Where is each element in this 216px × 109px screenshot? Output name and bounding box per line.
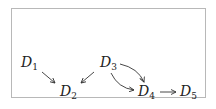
node-d5: D5: [180, 84, 197, 101]
edge-d1-d2: [42, 72, 55, 83]
edge-d3-d4-lower: [111, 73, 134, 90]
node-d4: D4: [138, 84, 155, 101]
edge-d3-d2: [81, 72, 94, 83]
node-d1: D1: [21, 55, 38, 72]
node-d2: D2: [60, 84, 77, 101]
edge-d3-d4-upper: [120, 64, 144, 82]
node-d3: D3: [100, 55, 117, 72]
